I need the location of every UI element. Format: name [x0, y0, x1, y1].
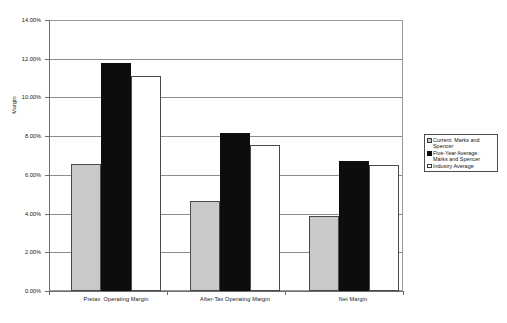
y-axis-tick-label: 2.00% [25, 249, 41, 255]
legend: Current: Marks and Spencer Five-Year Ave… [424, 134, 498, 172]
bar-industry-net [369, 165, 399, 291]
legend-item-current: Current: Marks and Spencer [427, 137, 495, 150]
x-axis-line [49, 291, 404, 292]
y-axis-tick-label: 6.00% [25, 172, 41, 178]
bar-current-aftertax [190, 201, 220, 291]
legend-item-label: Five-Year Average: Marks and Spencer [433, 150, 495, 163]
bar-fiveyear-net [339, 161, 369, 291]
legend-item-industry: Industry Average [427, 163, 495, 169]
legend-item-label: Current: Marks and Spencer [433, 137, 495, 150]
x-axis-tick-mark [285, 291, 286, 295]
x-axis-category-label: Net Margin [339, 296, 367, 302]
y-axis-tick-label: 4.00% [25, 211, 41, 217]
y-axis-tick-label: 14.00% [22, 17, 41, 23]
bar-fiveyear-aftertax [220, 133, 250, 291]
y-axis-tick-label: 12.00% [22, 56, 41, 62]
bar-industry-aftertax [250, 145, 280, 291]
x-axis-category-label: After-Tax Operating Margin [200, 296, 270, 302]
x-axis-tick-mark [167, 291, 168, 295]
bar-fiveyear-pretax [101, 63, 131, 291]
legend-swatch-icon [427, 164, 432, 169]
legend-item-label: Industry Average [433, 163, 474, 169]
y-axis-tick-label: 0.00% [25, 288, 41, 294]
bar-current-net [309, 216, 339, 292]
bars-layer [49, 20, 403, 291]
x-axis-category-label: Pretax Operating Margin [84, 296, 149, 302]
y-axis-tick-label: 10.00% [22, 94, 41, 100]
x-axis-tick-mark [49, 291, 50, 295]
legend-swatch-icon [427, 151, 432, 156]
y-axis-labels: 14.00% 12.00% 10.00% 8.00% 6.00% 4.00% 2… [0, 0, 48, 323]
x-axis-tick-mark [403, 291, 404, 295]
bar-industry-pretax [131, 76, 161, 291]
legend-item-fiveyear: Five-Year Average: Marks and Spencer [427, 150, 495, 163]
legend-swatch-icon [427, 138, 432, 143]
bar-current-pretax [71, 164, 101, 291]
bar-chart: Margin 14.00% 12.00% 10.00% 8.00% 6.00% … [0, 0, 507, 323]
y-axis-tick-label: 8.00% [25, 133, 41, 139]
